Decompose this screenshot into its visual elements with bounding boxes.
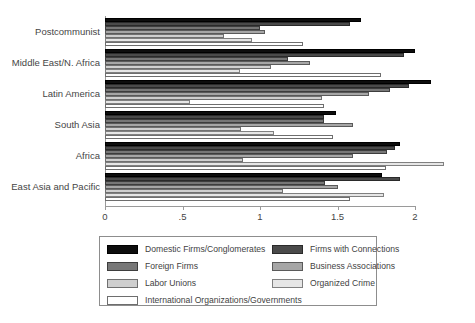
legend-item: Organized Crime <box>272 276 399 291</box>
x-tick-label: 2 <box>412 211 417 222</box>
bar-group <box>105 142 425 170</box>
bar-group <box>105 80 425 108</box>
legend-swatch <box>107 279 138 288</box>
bar-group <box>105 49 425 77</box>
legend-label: Labor Unions <box>145 279 196 288</box>
category-label: Latin America <box>2 89 100 99</box>
x-tick <box>183 206 184 210</box>
x-tick-label: .5 <box>179 211 187 222</box>
category-label: Postcommunist <box>2 27 100 37</box>
legend-swatch <box>107 296 138 305</box>
bar <box>105 166 386 170</box>
bar-group <box>105 18 425 46</box>
category-label: Africa <box>2 151 100 161</box>
legend-swatch <box>272 245 303 254</box>
x-tick <box>105 206 106 210</box>
category-label: South Asia <box>2 120 100 130</box>
legend: Domestic Firms/ConglomeratesForeign Firm… <box>99 236 377 306</box>
legend-item: Firms with Connections <box>272 242 399 257</box>
legend-label: Foreign Firms <box>145 262 198 271</box>
legend-label: Firms with Connections <box>310 245 399 254</box>
bar-group <box>105 173 425 201</box>
x-tick <box>338 206 339 210</box>
legend-swatch <box>107 262 138 271</box>
category-label: Middle East/N. Africa <box>2 58 100 68</box>
x-tick <box>415 206 416 210</box>
bar <box>105 135 333 139</box>
legend-swatch <box>107 245 138 254</box>
chart-figure: PostcommunistMiddle East/N. AfricaLatin … <box>0 0 475 323</box>
legend-swatch <box>272 262 303 271</box>
legend-label: Domestic Firms/Conglomerates <box>145 245 265 254</box>
category-label: East Asia and Pacific <box>2 182 100 192</box>
x-tick-label: 1.5 <box>331 211 344 222</box>
bar <box>105 197 350 201</box>
legend-swatch <box>272 279 303 288</box>
legend-item: Business Associations <box>272 259 399 274</box>
legend-column-right: Firms with ConnectionsBusiness Associati… <box>272 242 399 293</box>
bar <box>105 42 303 46</box>
x-tick-label: 1 <box>257 211 262 222</box>
x-tick-label: 0 <box>102 211 107 222</box>
legend-label: International Organizations/Governments <box>145 296 302 305</box>
category-axis-labels: PostcommunistMiddle East/N. AfricaLatin … <box>0 0 100 232</box>
bar-group <box>105 111 425 139</box>
bar <box>105 104 324 108</box>
x-tick <box>260 206 261 210</box>
legend-label: Business Associations <box>310 262 395 271</box>
plot-area: PostcommunistMiddle East/N. AfricaLatin … <box>0 0 475 232</box>
legend-label: Organized Crime <box>310 279 375 288</box>
legend-item: International Organizations/Governments <box>107 293 302 308</box>
bar <box>105 73 381 77</box>
